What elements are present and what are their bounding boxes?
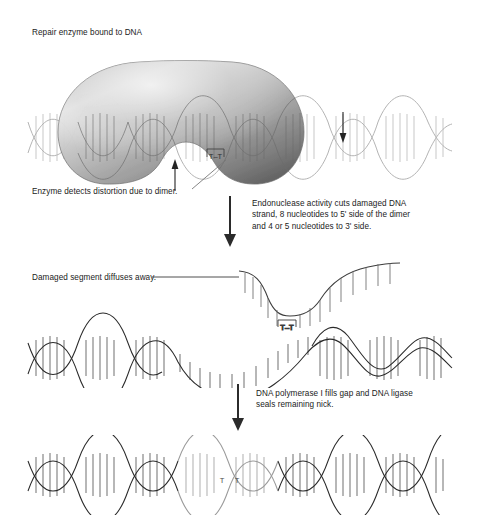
- excised-damaged-segment: T–T: [239, 263, 400, 332]
- stage-3-dna-helix: [28, 435, 452, 515]
- enzyme-detects-caption: Enzyme detects distortion due to dimer.: [32, 186, 177, 197]
- polymerase-text-line-2: seals remaining nick.: [256, 399, 466, 410]
- repair-diagram-figure: Repair enzyme bound to DNA: [0, 0, 478, 522]
- endonuclease-text-line-2: strand, 8 nucleotides to 5' side of the …: [252, 209, 466, 220]
- step-arrow-endonuclease-icon: [218, 196, 242, 248]
- polymerase-text-line-1: DNA polymerase I fills gap and DNA ligas…: [256, 388, 466, 399]
- stage-1-enzyme-bound-graphic: T–T: [0, 36, 478, 186]
- stage-2-excision-graphic: T–T: [0, 258, 478, 388]
- thymine-marker-stage3: T T: [220, 476, 240, 485]
- endonuclease-step-text: Endonuclease activity cuts damaged DNA s…: [252, 198, 466, 232]
- nick-arrow-stage1: [340, 112, 347, 143]
- dimer-label-stage3-right: T: [235, 476, 240, 485]
- dimer-label-stage3-left: T: [220, 476, 225, 485]
- stage-2-dna-helix: [28, 313, 452, 388]
- endonuclease-text-line-3: and 4 or 5 nucleotides to 3' side.: [252, 221, 466, 232]
- endonuclease-text-line-1: Endonuclease activity cuts damaged DNA: [252, 198, 466, 209]
- dimer-label-stage2: T–T: [280, 323, 294, 332]
- stage-3-repaired-graphic: T T: [0, 435, 478, 515]
- polymerase-step-text: DNA polymerase I fills gap and DNA ligas…: [256, 388, 466, 411]
- step-arrow-polymerase-icon: [226, 384, 250, 432]
- dimer-leader-line: [190, 158, 230, 192]
